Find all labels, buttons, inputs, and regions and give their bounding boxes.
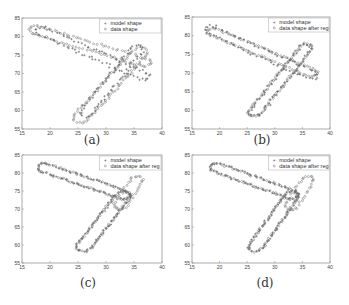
svg-text:40: 40 <box>327 130 333 136</box>
svg-text:35: 35 <box>300 264 306 270</box>
svg-text:85: 85 <box>184 152 190 158</box>
svg-text:15: 15 <box>189 130 195 136</box>
svg-text:55: 55 <box>184 260 190 266</box>
svg-text:70: 70 <box>14 206 20 212</box>
svg-text:55: 55 <box>14 126 20 132</box>
caption-b: (b) <box>242 133 282 147</box>
svg-text:60: 60 <box>14 242 20 248</box>
svg-text:65: 65 <box>14 224 20 230</box>
svg-text:85: 85 <box>14 152 20 158</box>
svg-text:80: 80 <box>14 33 20 39</box>
legend-data-label: data shape after reg <box>279 25 328 31</box>
svg-text:65: 65 <box>184 224 190 230</box>
svg-text:40: 40 <box>159 130 165 136</box>
legend-data-label: data shape after reg <box>279 163 328 169</box>
svg-text:20: 20 <box>217 130 223 136</box>
svg-text:35: 35 <box>131 130 137 136</box>
svg-text:80: 80 <box>184 32 190 38</box>
svg-text:60: 60 <box>184 107 190 113</box>
svg-text:65: 65 <box>14 89 20 95</box>
plot-b: 15202530354055606570758085model shapedat… <box>175 0 349 150</box>
svg-text:85: 85 <box>14 15 20 21</box>
svg-text:20: 20 <box>47 264 53 270</box>
svg-text:40: 40 <box>327 264 333 270</box>
plot-a: 15202530354055606570758085model shapedat… <box>0 0 175 150</box>
svg-text:15: 15 <box>19 264 25 270</box>
svg-text:25: 25 <box>244 264 250 270</box>
svg-text:40: 40 <box>159 264 165 270</box>
caption-a: (a) <box>72 133 112 147</box>
svg-text:20: 20 <box>217 264 223 270</box>
svg-text:35: 35 <box>131 264 137 270</box>
legend-data-label: data shape after reg <box>110 163 159 169</box>
caption-d: (d) <box>245 276 285 290</box>
svg-text:75: 75 <box>14 52 20 58</box>
svg-text:65: 65 <box>184 88 190 94</box>
svg-text:55: 55 <box>14 260 20 266</box>
svg-text:70: 70 <box>184 206 190 212</box>
svg-text:25: 25 <box>75 264 81 270</box>
svg-text:75: 75 <box>184 188 190 194</box>
caption-c: (c) <box>68 276 108 290</box>
svg-text:30: 30 <box>272 264 278 270</box>
svg-text:80: 80 <box>184 170 190 176</box>
svg-text:70: 70 <box>184 70 190 76</box>
svg-text:30: 30 <box>103 264 109 270</box>
svg-text:15: 15 <box>189 264 195 270</box>
svg-text:55: 55 <box>184 126 190 132</box>
svg-text:60: 60 <box>14 107 20 113</box>
svg-text:70: 70 <box>14 70 20 76</box>
svg-text:20: 20 <box>47 130 53 136</box>
scatter-plot-b: 15202530354055606570758085model shapedat… <box>175 0 349 150</box>
svg-text:85: 85 <box>184 14 190 20</box>
scatter-plot-a: 15202530354055606570758085model shapedat… <box>0 0 175 150</box>
legend-data-label: data shape <box>110 26 137 32</box>
svg-text:75: 75 <box>14 188 20 194</box>
svg-text:60: 60 <box>184 242 190 248</box>
svg-text:35: 35 <box>300 130 306 136</box>
svg-text:15: 15 <box>19 130 25 136</box>
svg-text:75: 75 <box>184 51 190 57</box>
svg-text:80: 80 <box>14 170 20 176</box>
